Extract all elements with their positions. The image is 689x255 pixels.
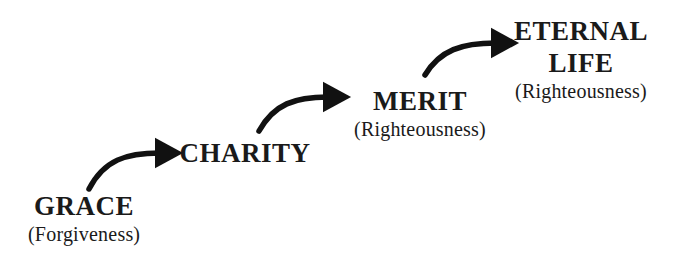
- arrow-merit-to-eternal-life: [425, 43, 496, 75]
- stage-subtitle: (Righteousness): [336, 117, 504, 141]
- stage-title-line2: LIFE: [502, 47, 660, 79]
- stage-eternal-life: ETERNAL LIFE (Righteousness): [502, 15, 660, 103]
- arrow-grace-to-charity: [89, 153, 160, 189]
- stage-charity: CHARITY: [178, 137, 312, 169]
- stage-title: MERIT: [336, 85, 504, 117]
- stage-merit: MERIT (Righteousness): [336, 85, 504, 141]
- stage-subtitle: (Righteousness): [502, 79, 660, 103]
- curved-arrow-icon: [425, 43, 496, 75]
- stage-title-line1: ETERNAL: [502, 15, 660, 47]
- stage-grace: GRACE (Forgiveness): [28, 190, 140, 246]
- stage-subtitle: (Forgiveness): [28, 222, 140, 246]
- stage-title: CHARITY: [178, 137, 312, 169]
- curved-arrow-icon: [89, 153, 160, 189]
- curved-arrow-icon: [259, 97, 328, 131]
- arrow-charity-to-merit: [259, 97, 328, 131]
- stage-title: GRACE: [28, 190, 140, 222]
